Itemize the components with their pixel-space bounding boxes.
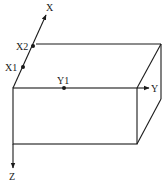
point-x2-dot: [31, 44, 35, 48]
box-diagram: X Y Z X1 X2 Y1: [0, 0, 164, 184]
point-x1-label: X1: [5, 62, 17, 73]
box-top-right-edge: [137, 44, 161, 88]
point-y1-dot: [62, 86, 66, 90]
box-bottom-right-edge: [137, 99, 161, 144]
point-x1-dot: [21, 65, 25, 69]
x-axis-label: X: [46, 2, 54, 13]
box-front-face: [13, 88, 137, 144]
y-axis-label: Y: [151, 83, 158, 94]
box: [13, 44, 161, 144]
point-x2-label: X2: [16, 41, 28, 52]
point-y1-label: Y1: [57, 75, 69, 86]
z-axis-label: Z: [9, 171, 15, 182]
